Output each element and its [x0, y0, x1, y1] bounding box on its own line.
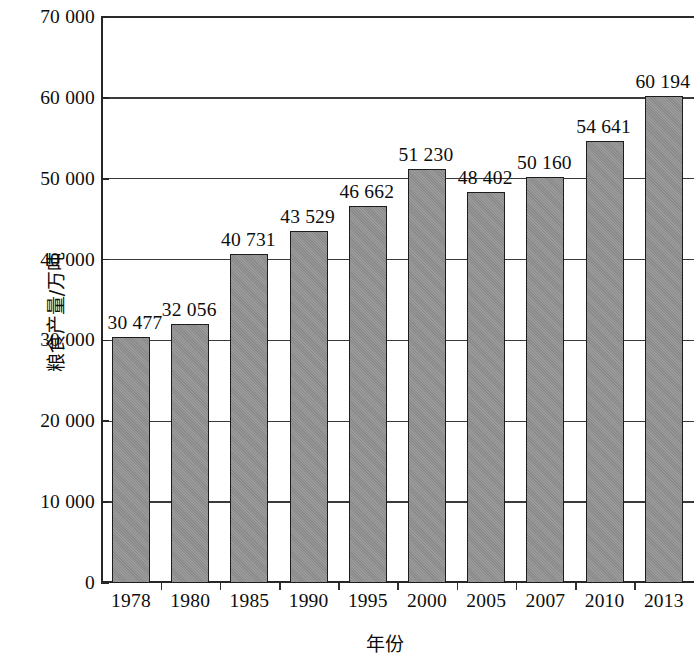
bar-value-label: 60 194: [635, 72, 690, 92]
bar-chart: 010 00020 00030 00040 00050 00060 00070 …: [0, 0, 694, 664]
x-axis-tick: [516, 583, 518, 590]
y-axis-tick: [101, 16, 109, 18]
bar-value-label: 54 641: [576, 117, 631, 137]
bar: [171, 324, 209, 583]
bar: [526, 177, 564, 583]
y-axis-line: [101, 17, 103, 583]
x-axis-tick: [575, 583, 577, 590]
y-axis-tick: [101, 97, 109, 99]
bar: [408, 169, 446, 583]
x-axis-tick: [279, 583, 281, 590]
x-axis-tick-label: 1978: [111, 590, 151, 612]
y-axis-tick: [101, 420, 109, 422]
y-axis-tick-label: 10 000: [40, 491, 95, 513]
bar-value-label: 46 662: [339, 182, 394, 202]
bar-value-label: 48 402: [458, 168, 513, 188]
x-axis-tick: [634, 583, 636, 590]
bar-value-label: 43 529: [280, 207, 335, 227]
x-axis-tick: [338, 583, 340, 590]
x-axis-tick-label: 2007: [525, 590, 565, 612]
x-axis-tick: [220, 583, 222, 590]
y-axis-tick-label: 60 000: [40, 87, 95, 109]
x-axis-tick-label: 2005: [466, 590, 506, 612]
y-axis-tick: [101, 501, 109, 503]
plot-area: 30 47732 05640 73143 52946 66251 23048 4…: [101, 17, 694, 583]
gridline: [101, 97, 694, 98]
bar: [467, 192, 505, 583]
bar-value-label: 40 731: [221, 230, 276, 250]
gridline: [101, 16, 694, 18]
y-axis-tick: [101, 340, 109, 342]
x-axis-tick-label: 2010: [585, 590, 625, 612]
y-axis-title: 粮食产量/万吨: [41, 252, 68, 372]
x-axis-tick-label: 1980: [170, 590, 210, 612]
x-axis-tick-label: 1985: [229, 590, 269, 612]
bar: [112, 337, 150, 583]
x-axis-tick-label: 2013: [644, 590, 684, 612]
bar-value-label: 32 056: [162, 300, 217, 320]
y-axis-tick: [101, 178, 109, 180]
y-axis-tick-label: 70 000: [40, 6, 95, 28]
bar: [349, 206, 387, 583]
bar-value-label: 51 230: [399, 145, 454, 165]
x-axis-tick: [161, 583, 163, 590]
bar: [290, 231, 328, 583]
bar: [586, 141, 624, 583]
x-axis-tick-label: 1990: [289, 590, 329, 612]
y-axis-tick-label: 50 000: [40, 168, 95, 190]
x-axis-title: 年份: [366, 629, 404, 656]
x-axis-tick: [397, 583, 399, 590]
bar-value-label: 30 477: [108, 313, 163, 333]
y-axis-tick-label: 0: [85, 572, 95, 594]
y-axis-tick-label: 20 000: [40, 410, 95, 432]
bar-value-label: 50 160: [517, 153, 572, 173]
x-axis-tick: [457, 583, 459, 590]
bar: [645, 96, 683, 583]
x-axis-tick-label: 1995: [348, 590, 388, 612]
bar: [230, 254, 268, 583]
x-axis-tick-label: 2000: [407, 590, 447, 612]
y-axis-tick: [101, 582, 109, 584]
y-axis-tick: [101, 259, 109, 261]
